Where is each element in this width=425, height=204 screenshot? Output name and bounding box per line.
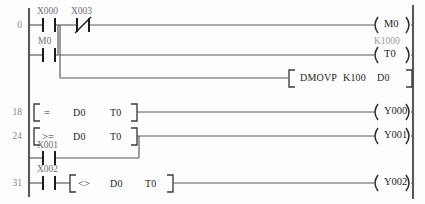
coil-label-y001: Y001 <box>384 130 407 141</box>
cmp-ne-bracket-close <box>167 175 173 192</box>
cmp-eq-bracket-open <box>34 104 40 121</box>
compare-arg1-d0: D0 <box>73 108 86 118</box>
coil-y000-left-arc <box>375 104 378 120</box>
instruction-op-dmovp: DMOVP <box>300 73 337 83</box>
step-number-0: 0 <box>2 21 22 31</box>
compare-arg2-t0-ne: T0 <box>145 179 157 189</box>
instruction-arg-k100: K100 <box>343 73 366 83</box>
contact-label-x000: X000 <box>37 7 58 17</box>
compare-arg2-t0-ge: T0 <box>110 132 122 142</box>
dmovp-bracket-close <box>406 70 412 87</box>
compare-arg2-t0: T0 <box>110 108 122 118</box>
contact-label-m0: M0 <box>38 37 51 47</box>
ladder-diagram: 0 18 24 31 X000 X003 M0 M0 K1000 T0 DMOV… <box>0 0 425 204</box>
step-number-31: 31 <box>2 179 22 189</box>
contact-label-x002: X002 <box>37 165 58 175</box>
step-number-18: 18 <box>2 108 22 118</box>
ladder-canvas <box>0 0 425 204</box>
compare-op-equal: = <box>44 108 50 119</box>
coil-y002-left-arc <box>375 175 378 191</box>
coil-label-m0: M0 <box>384 19 399 30</box>
cmp-ge-bracket-close <box>131 128 137 145</box>
instruction-arg-d0: D0 <box>377 73 390 83</box>
compare-arg1-d0-ne: D0 <box>110 179 123 189</box>
coil-m0-left-arc <box>375 17 378 33</box>
coil-t0-left-arc <box>375 47 378 63</box>
coil-label-y000: Y000 <box>384 106 407 117</box>
timer-preset-k1000: K1000 <box>374 37 400 47</box>
cmp-ne-bracket-open <box>70 175 76 192</box>
cmp-eq-bracket-close <box>131 104 137 121</box>
contact-label-x003: X003 <box>71 7 92 17</box>
coil-label-y002: Y002 <box>384 177 407 188</box>
dmovp-bracket-open <box>289 70 295 87</box>
compare-arg1-d0-ge: D0 <box>73 132 86 142</box>
step-number-24: 24 <box>2 132 22 142</box>
coil-label-t0: T0 <box>384 49 396 60</box>
coil-t0-right-arc <box>406 47 409 63</box>
coil-y001-left-arc <box>375 128 378 144</box>
coil-m0-right-arc <box>406 17 409 33</box>
compare-op-ne: <> <box>78 179 90 190</box>
contact-label-x001: X001 <box>37 141 58 151</box>
